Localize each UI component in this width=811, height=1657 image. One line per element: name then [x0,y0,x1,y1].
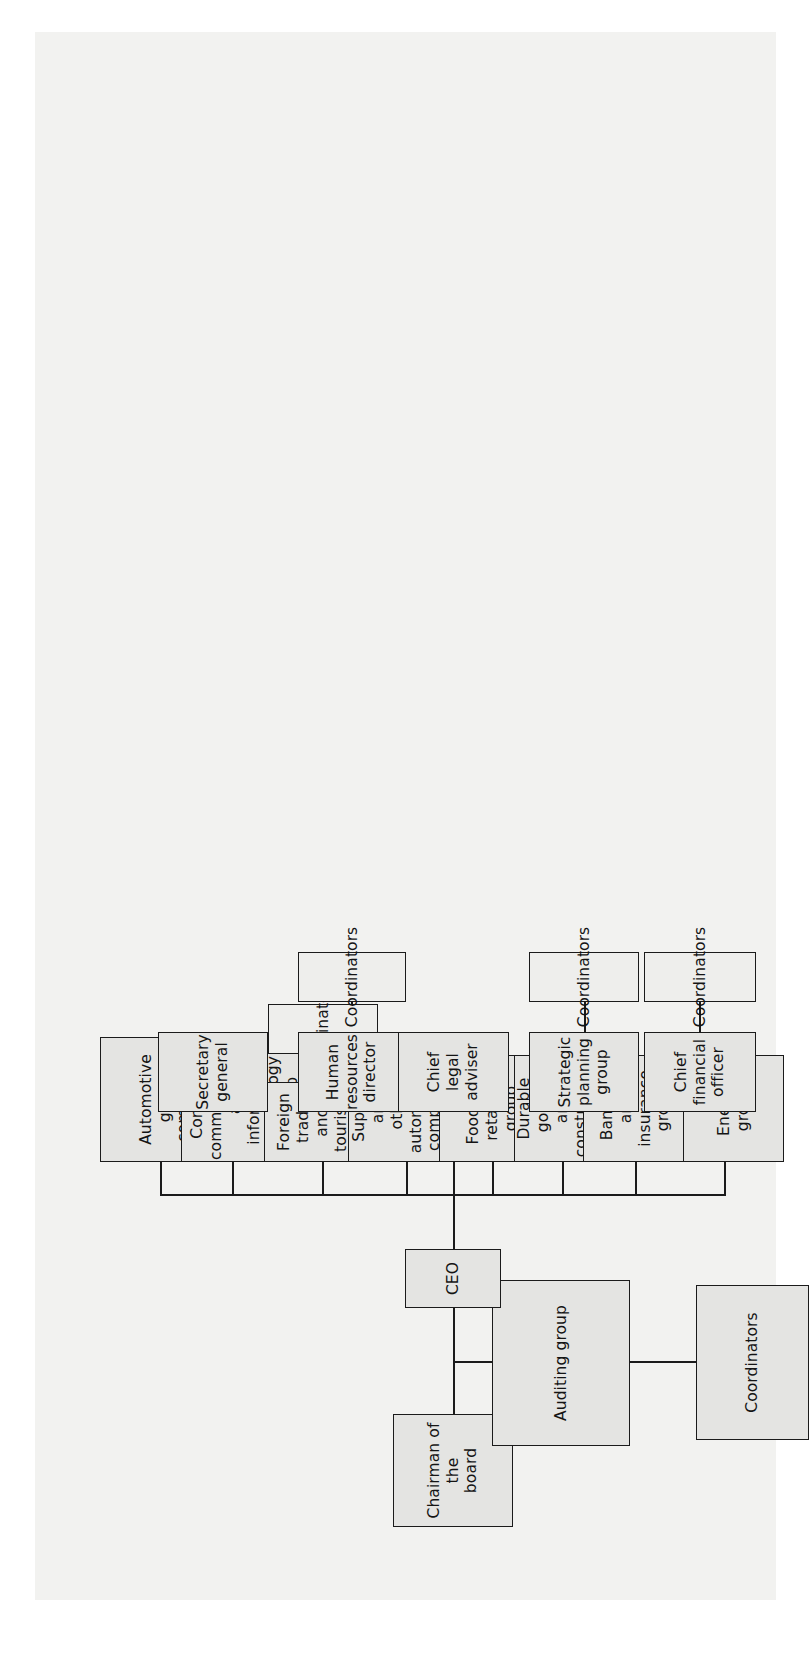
edge-to-autogroup [160,1162,162,1196]
node-chief-legal-adviser[interactable]: Chief legal adviser [398,1032,509,1112]
edge-chairman-to-auditing [453,1361,492,1363]
node-label-line: Chief legal [425,1037,463,1107]
node-label: Coordinators [343,927,362,1028]
node-label-line: Automotive [137,1054,156,1145]
node-chief-financial-officer[interactable]: Chief financial officer [644,1032,756,1112]
operating-spine [160,1194,724,1196]
node-hr-coordinators[interactable]: Coordinators [298,952,406,1002]
edge-to-food [492,1162,494,1196]
node-cfo-coordinators[interactable]: Coordinators [644,952,756,1002]
node-ceo[interactable]: CEO [405,1249,501,1308]
edge-to-foreign [322,1162,324,1196]
edge-auditing-to-coordinators [630,1361,696,1363]
node-label-line: adviser [463,1037,482,1107]
node-label: Coordinators [743,1312,762,1413]
node-label: Secretary general [194,1034,232,1110]
scanned-page: Chairman of the board Auditing group Coo… [35,32,776,1600]
node-secretary-general[interactable]: Secretary general [158,1032,268,1112]
edge-to-durable [562,1162,564,1196]
org-chart: Chairman of the board Auditing group Coo… [70,64,811,1632]
edge-to-energy [724,1162,726,1196]
node-label: Coordinators [575,927,594,1028]
edge-to-banking [635,1162,637,1196]
node-human-resources-director[interactable]: Human resources director [298,1032,406,1112]
node-strategic-planning-coordinators[interactable]: Coordinators [529,952,639,1002]
node-label: Coordinators [691,927,710,1028]
node-auditing-group[interactable]: Auditing group [492,1280,630,1446]
node-label-line: board [462,1419,481,1522]
node-label: Auditing group [552,1305,571,1421]
node-label-line: Chief financial [672,1037,710,1107]
node-label-line: Strategic planning [556,1037,594,1108]
node-label-line: Chairman of the [425,1419,463,1522]
edge-to-corpcomm [232,1162,234,1196]
node-label-line: officer [709,1037,728,1107]
node-label-line: group [593,1037,612,1108]
edge-to-supplies [406,1162,408,1196]
node-label-line: Human resources [324,1034,362,1110]
node-label-line: director [361,1034,380,1110]
node-auditing-coordinators[interactable]: Coordinators [696,1285,809,1440]
node-strategic-planning-group[interactable]: Strategic planning group [529,1032,639,1112]
node-label: CEO [444,1262,463,1295]
